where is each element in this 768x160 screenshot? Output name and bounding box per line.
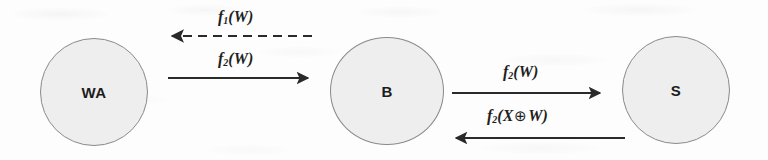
node-wa-label: WA bbox=[82, 84, 107, 101]
edge-label-f2-w-b-s: f2(W) bbox=[503, 63, 538, 81]
edge-label-f1-w-suffix: (W) bbox=[228, 8, 253, 25]
edge-label-f1-w: f1(W) bbox=[218, 8, 253, 26]
node-b-label: B bbox=[381, 83, 392, 100]
xor-icon: ⊕ bbox=[513, 108, 528, 124]
edge-label-f2-w-wa-b-suffix: (W) bbox=[228, 50, 253, 67]
edge-label-f2-xor-w-open: (X bbox=[497, 107, 513, 124]
node-s-label: S bbox=[671, 82, 681, 99]
node-wa[interactable]: WA bbox=[40, 38, 148, 146]
edge-label-f2-w-wa-b: f2(W) bbox=[218, 50, 253, 68]
node-b[interactable]: B bbox=[330, 37, 444, 145]
edge-label-f2-xor-w-close: W) bbox=[528, 107, 548, 124]
edge-label-f2-w-b-s-suffix: (W) bbox=[513, 63, 538, 80]
protocol-flow-diagram: f1(W) f2(W) f2(W) f2(X⊕W) WA B S bbox=[0, 0, 768, 160]
edge-label-f2-xor-w-s-b: f2(X⊕W) bbox=[487, 107, 548, 125]
node-s[interactable]: S bbox=[622, 36, 730, 144]
